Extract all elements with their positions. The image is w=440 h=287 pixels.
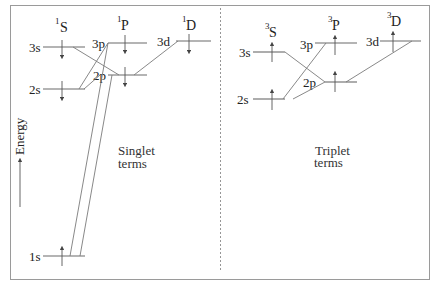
triplet-label-3p: 3p	[300, 37, 313, 52]
transition-1s-2p	[80, 75, 112, 256]
triplet-label-3s: 3s	[239, 45, 251, 60]
singlet-label-2s: 2s	[29, 82, 41, 97]
singlet-label-3p: 3p	[92, 36, 105, 51]
triplet-col-d: D	[391, 14, 401, 29]
singlet-panel: 1 S 1 P 1 D 3s 3p 3d 2p 2s 1s Si	[29, 14, 211, 266]
singlet-col-d: D	[186, 18, 196, 33]
singlet-caption-line2: terms	[118, 156, 147, 171]
singlet-col-s: S	[60, 20, 68, 35]
triplet-label-3d: 3d	[366, 34, 380, 49]
singlet-label-1s: 1s	[29, 249, 41, 264]
energy-axis-label: Energy	[12, 117, 27, 155]
singlet-col-p: P	[121, 18, 129, 33]
triplet-caption-line2: terms	[314, 155, 343, 170]
transition-1s-3p	[70, 43, 108, 256]
transition-2p-3d	[134, 41, 178, 75]
singlet-label-3d: 3d	[157, 34, 171, 49]
triplet-col-s: S	[269, 25, 277, 40]
triplet-col-p: P	[332, 18, 340, 33]
energy-axis: Energy	[12, 117, 27, 207]
transition-2p-3d	[346, 41, 412, 82]
singlet-label-3s: 3s	[29, 40, 41, 55]
singlet-col-s-sup: 1	[55, 16, 60, 26]
energy-level-diagram: Energy 1 S 1 P 1 D 3s 3p 3d 2p 2s 1s	[0, 0, 440, 287]
triplet-panel: 3 S 3 P 3 D 3s 3p 3d 2p 2s Triplet terms	[237, 10, 421, 170]
triplet-label-2s: 2s	[237, 92, 249, 107]
